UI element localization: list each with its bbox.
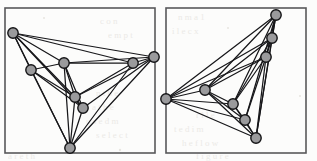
graph-node[interactable] <box>228 99 238 109</box>
graph-drawings-svg: n m a 1 i l e c x r l l e t e d i m h e … <box>0 0 317 161</box>
node-circle[interactable] <box>26 65 36 75</box>
node-circle[interactable] <box>70 92 80 102</box>
svg-text:e m p t: e m p t <box>108 30 133 40</box>
graph-node[interactable] <box>271 10 281 20</box>
graph-node[interactable] <box>240 115 250 125</box>
graph-node[interactable] <box>70 92 80 102</box>
node-circle[interactable] <box>228 99 238 109</box>
graph-node[interactable] <box>65 143 75 153</box>
node-circle[interactable] <box>161 94 171 104</box>
node-circle[interactable] <box>8 28 18 38</box>
node-circle[interactable] <box>78 103 88 113</box>
graph-node[interactable] <box>261 52 271 62</box>
node-circle[interactable] <box>65 143 75 153</box>
svg-text:c o n: c o n <box>100 16 118 26</box>
figure-container: n m a 1 i l e c x r l l e t e d i m h e … <box>0 0 317 161</box>
svg-text:n m a 1: n m a 1 <box>178 12 205 22</box>
graph-node[interactable] <box>267 33 277 43</box>
svg-text:i l e c x: i l e c x <box>172 26 199 36</box>
graph-node[interactable] <box>8 28 18 38</box>
node-circle[interactable] <box>200 85 210 95</box>
graph-node[interactable] <box>161 94 171 104</box>
node-circle[interactable] <box>271 10 281 20</box>
graph-node[interactable] <box>200 85 210 95</box>
node-circle[interactable] <box>128 58 138 68</box>
graph-node[interactable] <box>26 65 36 75</box>
node-circle[interactable] <box>240 115 250 125</box>
graph-node[interactable] <box>149 52 159 62</box>
node-circle[interactable] <box>59 58 69 68</box>
graph-node[interactable] <box>59 58 69 68</box>
graph-node[interactable] <box>128 58 138 68</box>
graph-node[interactable] <box>78 103 88 113</box>
node-circle[interactable] <box>261 52 271 62</box>
svg-text:t e d i m: t e d i m <box>174 124 204 134</box>
svg-text:h e f l o w: h e f l o w <box>182 138 219 148</box>
node-circle[interactable] <box>149 52 159 62</box>
graph-panels: n m a 1 i l e c x r l l e t e d i m h e … <box>0 0 317 161</box>
svg-text:s e l e c t: s e l e c t <box>96 130 128 140</box>
node-circle[interactable] <box>251 133 261 143</box>
graph-node[interactable] <box>251 133 261 143</box>
node-circle[interactable] <box>267 33 277 43</box>
